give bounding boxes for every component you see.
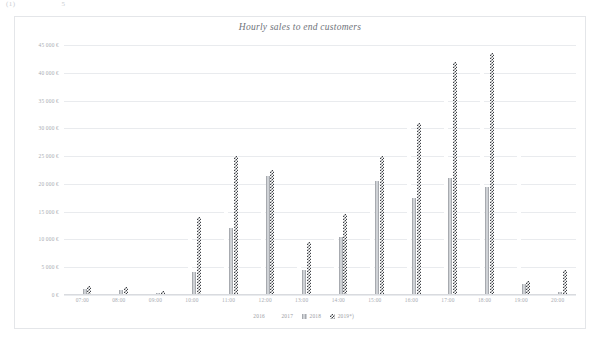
x-axis-tick-label: 15:00 [368,297,381,303]
y-axis-tick-label: 0 € [52,292,59,298]
bar-group[interactable] [283,45,320,295]
series-2017-swatch [274,314,279,319]
bar-group[interactable] [466,45,503,295]
legend-item[interactable]: 2018 [302,313,321,319]
bar[interactable] [297,262,301,295]
bar-group[interactable] [503,45,540,295]
x-axis-tick-label: 17:00 [441,297,454,303]
x-axis-tick-label: 07:00 [76,297,89,303]
y-axis-tick-label: 10 000 € [39,236,59,242]
x-axis-tick-label: 08:00 [112,297,125,303]
bar[interactable] [343,214,347,295]
bar[interactable] [453,62,457,295]
bar[interactable] [270,170,274,295]
y-axis-tick-label: 5 000 € [41,264,59,270]
bar[interactable] [412,198,416,295]
y-axis-tick-label: 15 000 € [39,209,59,215]
x-axis-tick-label: 19:00 [515,297,528,303]
bar[interactable] [402,282,406,295]
bar[interactable] [229,228,233,295]
chart-card[interactable]: Hourly sales to end customers 45 000 €40… [14,16,586,329]
bar[interactable] [407,109,411,295]
bar[interactable] [224,209,228,295]
y-axis-tick-label: 20 000 € [39,181,59,187]
bar[interactable] [490,53,494,295]
bar[interactable] [192,272,196,295]
x-axis-tick-label: 09:00 [149,297,162,303]
y-axis-tick-label: 40 000 € [39,70,59,76]
page-top-fragment: (1) 5 [0,0,601,14]
bar[interactable] [188,231,192,295]
legend-item[interactable]: 2019*) [330,313,354,319]
page-fragment-left: (1) [6,0,15,8]
plot-area[interactable]: 45 000 €40 000 €35 000 €30 000 €25 000 €… [64,45,576,295]
gridline [64,295,576,296]
x-axis-line [64,294,576,295]
chart-title: Hourly sales to end customers [15,22,585,32]
bar[interactable] [334,214,338,295]
bar[interactable] [439,277,443,295]
series-2018-swatch [302,314,307,319]
x-axis-tick-label: 18:00 [478,297,491,303]
bar[interactable] [517,148,521,295]
y-axis-tick-label: 45 000 € [39,42,59,48]
bar[interactable] [307,242,311,295]
legend-item[interactable]: 2016 [246,313,265,319]
bar[interactable] [302,270,306,295]
x-axis-tick-label: 20:00 [551,297,564,303]
bar[interactable] [380,156,384,295]
bar[interactable] [375,181,379,295]
series-2016-swatch [246,314,251,319]
legend-label: 2019*) [338,313,354,319]
page-fragment-right: 5 [62,0,66,8]
chart-legend[interactable]: 2016201720182019*) [15,313,585,319]
bar-group[interactable] [137,45,174,295]
bar[interactable] [266,176,270,295]
bar-group[interactable] [101,45,138,295]
bar[interactable] [197,217,201,295]
bar-group[interactable] [64,45,101,295]
bar[interactable] [480,67,484,295]
bar[interactable] [448,178,452,295]
bar[interactable] [261,192,265,295]
y-axis-tick-label: 35 000 € [39,98,59,104]
legend-label: 2017 [281,313,293,319]
bar-group[interactable] [320,45,357,295]
legend-label: 2016 [253,313,265,319]
bar-group[interactable] [247,45,284,295]
legend-item[interactable]: 2017 [274,313,293,319]
series-2019-swatch [330,314,335,319]
y-axis-tick-label: 25 000 € [39,153,59,159]
bar-group[interactable] [393,45,430,295]
bar-group[interactable] [539,45,576,295]
x-axis-tick-label: 10:00 [185,297,198,303]
bar[interactable] [339,237,343,295]
x-axis-ticks: 07:0008:0009:0010:0011:0012:0013:0014:00… [64,297,576,311]
bar[interactable] [417,123,421,295]
x-axis-tick-label: 11:00 [222,297,235,303]
bar[interactable] [475,281,479,295]
x-axis-tick-label: 16:00 [405,297,418,303]
bar-group[interactable] [174,45,211,295]
bar[interactable] [563,270,567,295]
x-axis-tick-label: 13:00 [295,297,308,303]
bar[interactable] [526,281,530,295]
bar-group[interactable] [210,45,247,295]
y-axis-tick-label: 30 000 € [39,125,59,131]
bar-group[interactable] [357,45,394,295]
bar[interactable] [485,187,489,295]
bar[interactable] [444,81,448,295]
x-axis-tick-label: 14:00 [332,297,345,303]
x-axis-tick-label: 12:00 [259,297,272,303]
bar[interactable] [370,192,374,295]
legend-label: 2018 [310,313,322,319]
bar-group[interactable] [430,45,467,295]
bar[interactable] [234,156,238,295]
